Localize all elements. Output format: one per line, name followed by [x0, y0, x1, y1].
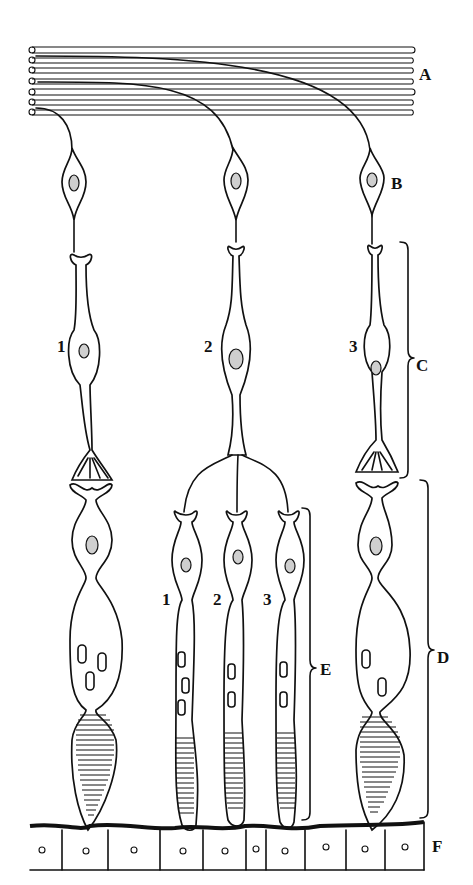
rod-cells-layer-e [172, 511, 304, 830]
label-c: C [416, 356, 428, 375]
retina-diagram: A B C D E F 1 2 3 1 2 3 [0, 0, 473, 885]
label-e: E [320, 660, 331, 679]
lower-cell-number-3: 3 [263, 590, 272, 609]
bipolar-cells-layer-c [69, 245, 398, 512]
ganglion-cells-layer-b [62, 148, 384, 252]
upper-cell-number-1: 1 [57, 337, 66, 356]
label-b: B [391, 174, 402, 193]
lower-cell-number-2: 2 [213, 590, 222, 609]
label-d: D [437, 648, 449, 667]
label-a: A [419, 65, 432, 84]
fiber-bundle-layer-a [29, 47, 415, 150]
upper-cell-number-2: 2 [204, 337, 213, 356]
label-f: F [432, 837, 442, 856]
upper-cell-number-3: 3 [349, 337, 358, 356]
lower-cell-number-1: 1 [162, 590, 171, 609]
